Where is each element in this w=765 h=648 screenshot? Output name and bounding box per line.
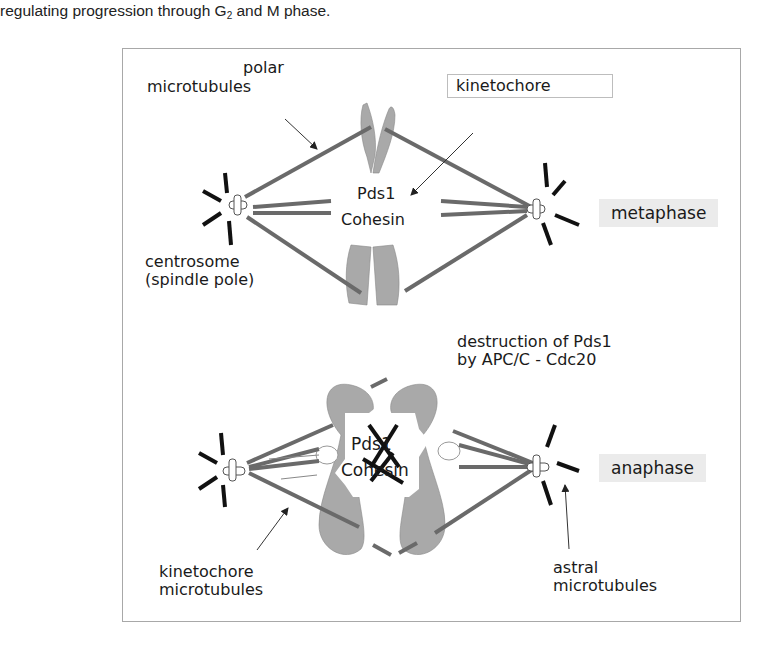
caption-tail: and M phase. (232, 2, 330, 19)
spindle-diagram (123, 49, 742, 623)
centrosome-left (203, 173, 247, 245)
label-kinetochore-mt-1: kinetochore (159, 563, 254, 581)
caption-main: regulating progression through G (0, 2, 227, 19)
phase-label-metaphase: metaphase (599, 199, 718, 227)
label-astral-mt-1: astral (553, 559, 598, 577)
phase-label-anaphase: anaphase (599, 454, 706, 482)
label-kinetochore: kinetochore (447, 74, 613, 98)
metaphase-spindle (203, 103, 579, 305)
label-pds1-anaphase: Pds1 (351, 435, 392, 453)
label-polar: polar (243, 59, 284, 77)
label-pds1-metaphase: Pds1 (357, 185, 395, 203)
centrosome-right (527, 163, 579, 245)
mitosis-figure: polar microtubules kinetochore Pds1 Cohe… (122, 48, 741, 622)
anaphase-centrosome-right (527, 425, 579, 505)
label-cohesin-anaphase: Cohesin (341, 461, 409, 479)
anaphase-centrosome-left (199, 433, 245, 507)
label-kinetochore-mt-2: microtubules (159, 581, 263, 599)
label-cohesin-metaphase: Cohesin (341, 211, 405, 229)
label-astral-mt-2: microtubules (553, 577, 657, 595)
label-polar-microtubules: microtubules (147, 78, 251, 96)
transition-line-1: destruction of Pds1 (457, 333, 612, 351)
caption-text: regulating progression through G2 and M … (0, 2, 330, 21)
label-centrosome: centrosome (145, 253, 240, 271)
label-spindle-pole: (spindle pole) (145, 271, 254, 289)
transition-line-2: by APC/C - Cdc20 (457, 351, 596, 369)
